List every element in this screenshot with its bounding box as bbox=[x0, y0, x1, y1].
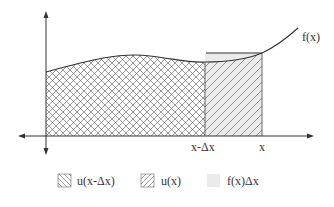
u-x-region bbox=[205, 53, 262, 136]
x-axis-left-arrow-icon bbox=[18, 134, 25, 139]
legend-label-u-x: u(x) bbox=[161, 174, 181, 188]
tick-label-x: x bbox=[259, 140, 265, 154]
legend-swatch-u-x bbox=[141, 174, 154, 187]
legend-swatch-u-x-minus-dx bbox=[58, 174, 71, 187]
legend-label-fxdx: f(x)Δx bbox=[227, 174, 259, 188]
y-axis-up-arrow-icon bbox=[44, 11, 49, 18]
legend: u(x-Δx) u(x) f(x)Δx bbox=[58, 174, 259, 188]
y-axis-down-arrow-icon bbox=[44, 148, 49, 155]
curve-label: f(x) bbox=[302, 30, 320, 44]
x-axis-right-arrow-icon bbox=[307, 134, 314, 139]
tick-label-x-minus-dx: x-Δx bbox=[191, 140, 215, 154]
u-x-minus-dx-region bbox=[46, 55, 205, 136]
legend-swatch-fxdx bbox=[207, 174, 220, 187]
legend-label-u-x-minus-dx: u(x-Δx) bbox=[77, 174, 115, 188]
integral-diagram: f(x) x-Δx x u(x-Δx) u(x) f(x)Δx bbox=[0, 0, 334, 207]
